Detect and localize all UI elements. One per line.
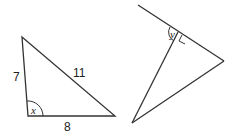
right-figure: y — [132, 5, 224, 123]
side-label-left: 7 — [13, 70, 20, 84]
geometry-diagram: x 7 11 8 y — [0, 0, 238, 135]
left-triangle: x 7 11 8 — [13, 37, 115, 134]
segment-bottom-to-right — [132, 61, 224, 123]
segment-foot-to-bottom — [132, 32, 178, 123]
angle-x-label: x — [30, 104, 36, 116]
triangle-outline — [22, 37, 115, 116]
straight-line — [138, 5, 224, 61]
side-label-hypotenuse: 11 — [73, 66, 86, 80]
right-angle-marker — [179, 35, 185, 44]
side-label-bottom: 8 — [64, 120, 71, 134]
angle-y-label: y — [169, 28, 175, 40]
